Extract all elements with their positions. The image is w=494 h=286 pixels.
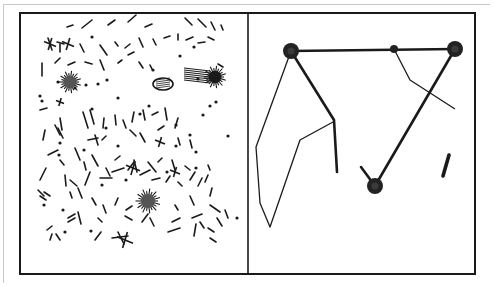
speck-dot bbox=[201, 113, 204, 116]
fragment-stroke bbox=[150, 65, 152, 69]
fragment-stroke bbox=[210, 238, 216, 242]
fragment-stroke bbox=[166, 176, 170, 182]
fragment-stroke bbox=[80, 44, 84, 52]
fuzzy-blob bbox=[209, 71, 222, 84]
fragment-stroke bbox=[115, 115, 116, 125]
fragment-stroke bbox=[84, 162, 86, 170]
fragment-stroke bbox=[217, 218, 222, 226]
fragment-stroke bbox=[200, 222, 204, 228]
fragment-stroke bbox=[38, 190, 44, 196]
speck-dot bbox=[116, 96, 119, 99]
fragment-stroke bbox=[100, 60, 104, 70]
speck-dot bbox=[89, 229, 92, 232]
fragment-stroke bbox=[47, 226, 52, 230]
fragment-stroke bbox=[70, 180, 77, 186]
fragment-stroke bbox=[172, 218, 180, 222]
fragment-stroke bbox=[115, 42, 118, 46]
fragment-stroke bbox=[186, 37, 193, 40]
speck-dot bbox=[82, 148, 85, 151]
fragment-stroke bbox=[100, 45, 107, 55]
fragment-stroke bbox=[175, 205, 178, 210]
speck-dot bbox=[42, 203, 45, 206]
speck-dot bbox=[188, 133, 191, 136]
left-panel-scatter bbox=[38, 15, 239, 248]
fragment-stroke bbox=[205, 175, 208, 182]
fragment-stroke bbox=[40, 108, 47, 110]
fragment-stroke bbox=[158, 158, 162, 162]
fragment-stroke bbox=[68, 62, 75, 65]
fragment-stroke bbox=[164, 36, 170, 38]
fragment-stroke bbox=[115, 156, 120, 160]
fragment-stroke bbox=[152, 178, 160, 180]
fragment-stroke bbox=[132, 112, 134, 122]
illustration bbox=[0, 0, 494, 286]
fragment-stroke bbox=[198, 19, 206, 27]
fragment-stroke bbox=[44, 192, 50, 196]
speck-dot bbox=[138, 112, 141, 115]
fragment-stroke bbox=[192, 214, 202, 218]
fragment-stroke bbox=[68, 218, 75, 222]
fragment-stroke bbox=[221, 25, 223, 30]
fragment-stroke bbox=[118, 60, 122, 63]
fragment-stroke bbox=[123, 120, 126, 128]
fragment-stroke bbox=[190, 172, 195, 180]
fragment-stroke bbox=[90, 110, 94, 124]
fragment-stroke bbox=[85, 172, 90, 185]
speck-dot bbox=[40, 99, 43, 102]
fragment-stroke bbox=[165, 108, 167, 120]
speck-dot bbox=[90, 107, 93, 110]
fragment-stroke bbox=[152, 112, 158, 115]
fragment-stroke bbox=[67, 25, 73, 27]
fragment-stroke bbox=[112, 168, 124, 172]
speck-dot bbox=[63, 230, 66, 233]
fragment-stroke bbox=[208, 228, 214, 232]
right-panel-network bbox=[256, 41, 463, 227]
speck-dot bbox=[235, 216, 238, 219]
fragment-stroke bbox=[78, 212, 81, 224]
speck-dot bbox=[105, 78, 108, 81]
fragment-stroke bbox=[103, 118, 104, 128]
fragment-stroke bbox=[194, 224, 196, 236]
fragment-stroke bbox=[98, 218, 102, 222]
network-node-top-mid bbox=[390, 45, 398, 53]
thick-connection-line bbox=[291, 49, 455, 51]
speck-dot bbox=[151, 68, 154, 71]
node-core bbox=[287, 47, 294, 54]
fragment-stroke bbox=[40, 196, 46, 200]
speck-dot bbox=[174, 144, 177, 147]
fragment-stroke bbox=[68, 214, 75, 218]
panel-frame bbox=[20, 13, 475, 274]
speck-dot bbox=[208, 104, 211, 107]
thick-connection-line bbox=[375, 49, 455, 186]
fragment-stroke bbox=[43, 130, 45, 140]
fragment-stroke bbox=[128, 52, 134, 55]
fragment-stroke bbox=[75, 148, 80, 160]
fragment-stroke bbox=[140, 133, 145, 142]
fragment-stroke bbox=[198, 178, 202, 186]
fragment-stroke bbox=[172, 160, 175, 170]
fragment-stroke bbox=[85, 62, 92, 64]
figure-page bbox=[0, 0, 494, 286]
speck-dot bbox=[124, 178, 127, 181]
fragment-stroke bbox=[142, 214, 148, 222]
fragment-stroke bbox=[92, 155, 98, 166]
speck-dot bbox=[61, 208, 64, 211]
fragment-stroke bbox=[126, 206, 132, 210]
fragment-stroke bbox=[190, 196, 194, 205]
speck-dot bbox=[38, 94, 41, 97]
fragment-stroke bbox=[185, 18, 192, 25]
speck-dot bbox=[194, 166, 197, 169]
fragment-stroke bbox=[102, 136, 106, 140]
fragment-stroke bbox=[95, 135, 98, 145]
fragment-stroke bbox=[210, 188, 212, 196]
fragment-stroke bbox=[55, 58, 60, 63]
fragment-stroke bbox=[103, 205, 106, 213]
fragment-stroke bbox=[208, 165, 210, 170]
speck-dot bbox=[100, 183, 103, 186]
speck-dot bbox=[104, 126, 107, 129]
speck-dot bbox=[214, 100, 217, 103]
fragment-stroke bbox=[158, 126, 164, 130]
speck-dot bbox=[90, 35, 93, 38]
speck-dot bbox=[96, 82, 99, 85]
fragment-stroke bbox=[95, 232, 101, 240]
